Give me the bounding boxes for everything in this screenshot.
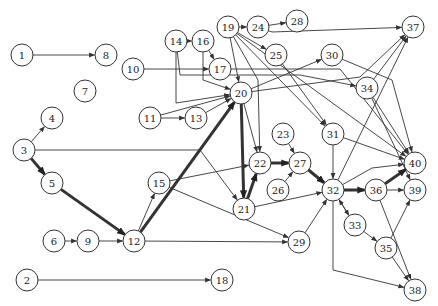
node-24: 24 — [247, 16, 269, 38]
node-23: 23 — [272, 123, 294, 145]
node-11: 11 — [139, 107, 161, 129]
node-label: 39 — [409, 185, 422, 196]
node-label: 17 — [214, 64, 227, 75]
edge-17-to-40 — [231, 69, 408, 154]
node-8: 8 — [95, 44, 117, 66]
node-label: 33 — [349, 220, 362, 231]
node-2: 2 — [16, 269, 38, 291]
node-14: 14 — [165, 30, 187, 52]
node-21: 21 — [233, 198, 255, 220]
node-label: 5 — [49, 178, 55, 189]
node-label: 2 — [24, 275, 30, 286]
node-label: 9 — [85, 236, 91, 247]
node-35: 35 — [375, 237, 397, 259]
node-7: 7 — [74, 80, 96, 102]
node-label: 32 — [327, 185, 340, 196]
node-label: 28 — [291, 16, 304, 27]
edge-24-to-28 — [269, 23, 286, 26]
node-label: 19 — [222, 22, 235, 33]
node-22: 22 — [249, 152, 271, 174]
node-13: 13 — [185, 107, 207, 129]
edge-23-to-27 — [289, 143, 295, 153]
edge-35-to-38 — [392, 257, 408, 280]
node-label: 21 — [238, 204, 251, 215]
node-37: 37 — [402, 16, 424, 38]
node-12: 12 — [123, 230, 145, 252]
node-3: 3 — [13, 139, 35, 161]
node-6: 6 — [43, 230, 65, 252]
node-5: 5 — [41, 172, 63, 194]
node-label: 14 — [170, 36, 183, 47]
node-15: 15 — [148, 172, 170, 194]
node-29: 29 — [288, 231, 310, 253]
node-label: 7 — [82, 86, 88, 97]
node-label: 35 — [380, 243, 393, 254]
node-label: 20 — [235, 88, 248, 99]
node-28: 28 — [286, 10, 308, 32]
node-40: 40 — [404, 152, 426, 174]
edge-30-to-40 — [342, 59, 412, 152]
edge-33-to-32 — [339, 200, 349, 216]
node-label: 22 — [254, 158, 267, 169]
edge-3-to-5 — [31, 158, 44, 174]
node-label: 30 — [326, 50, 339, 61]
edge-27-to-32 — [309, 170, 325, 183]
node-32: 32 — [322, 179, 344, 201]
node-label: 36 — [370, 185, 383, 196]
node-label: 27 — [294, 158, 307, 169]
node-1: 1 — [11, 44, 33, 66]
node-label: 1 — [19, 50, 25, 61]
edge-34-to-37 — [374, 36, 406, 79]
node-31: 31 — [322, 123, 344, 145]
node-label: 11 — [144, 113, 157, 124]
node-label: 6 — [51, 236, 57, 247]
edge-5-to-12 — [61, 189, 125, 234]
edge-21-to-22 — [248, 174, 257, 199]
edge-20-to-22 — [244, 104, 257, 152]
node-4: 4 — [41, 107, 63, 129]
node-label: 16 — [197, 36, 210, 47]
node-label: 37 — [407, 22, 420, 33]
edge-20-to-30 — [251, 59, 321, 88]
node-19: 19 — [217, 16, 239, 38]
node-26: 26 — [267, 179, 289, 201]
node-30: 30 — [321, 44, 343, 66]
node-label: 12 — [128, 236, 141, 247]
node-layer: 1810743569121521814161719242820111325303… — [11, 10, 426, 301]
node-label: 31 — [327, 129, 340, 140]
node-17: 17 — [209, 58, 231, 80]
edge-25-to-31 — [282, 64, 326, 125]
edge-3-to-4 — [31, 127, 44, 142]
node-label: 26 — [272, 185, 285, 196]
node-18: 18 — [211, 269, 233, 291]
node-34: 34 — [356, 77, 378, 99]
node-label: 29 — [293, 237, 306, 248]
edge-29-to-32 — [305, 200, 327, 233]
node-label: 24 — [252, 22, 265, 33]
node-label: 23 — [277, 129, 290, 140]
node-label: 38 — [409, 285, 422, 296]
node-33: 33 — [344, 214, 366, 236]
node-label: 15 — [153, 178, 166, 189]
edge-33-to-35 — [364, 232, 377, 242]
node-label: 40 — [409, 158, 422, 169]
node-10: 10 — [122, 58, 144, 80]
node-38: 38 — [404, 279, 426, 301]
node-label: 10 — [127, 64, 140, 75]
edge-26-to-27 — [285, 172, 293, 182]
node-20: 20 — [230, 82, 252, 104]
node-36: 36 — [365, 179, 387, 201]
node-label: 34 — [361, 83, 374, 94]
edge-12-to-29 — [145, 241, 288, 242]
node-label: 3 — [21, 145, 27, 156]
edge-35-to-39 — [391, 200, 410, 238]
directed-graph: 1810743569121521814161719242820111325303… — [0, 0, 438, 306]
node-16: 16 — [192, 30, 214, 52]
node-27: 27 — [289, 152, 311, 174]
edge-16-to-17 — [209, 50, 214, 59]
edge-32-to-37 — [338, 37, 408, 180]
node-25: 25 — [265, 44, 287, 66]
node-label: 18 — [216, 275, 229, 286]
node-label: 8 — [103, 50, 109, 61]
node-label: 13 — [190, 113, 203, 124]
